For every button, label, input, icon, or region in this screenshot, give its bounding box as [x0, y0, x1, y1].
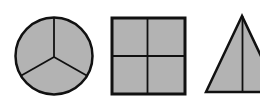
triangle-halves	[206, 16, 260, 92]
square-quarters	[112, 18, 185, 94]
shapes-figure	[0, 0, 260, 104]
circle-thirds	[16, 18, 93, 95]
triangle-shape	[206, 16, 260, 92]
